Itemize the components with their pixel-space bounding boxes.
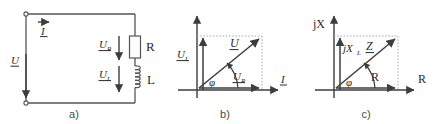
label-jXL-sub: L [356, 49, 361, 57]
label-U-total: U [230, 36, 240, 50]
label-resistor-R: R [146, 39, 155, 54]
label-axis-I: I [280, 73, 286, 85]
terminal-node-bottom [24, 101, 28, 105]
label-jXL: jX [341, 42, 354, 54]
label-axis-R: R [418, 72, 426, 86]
caption-panel-c: c) [361, 108, 370, 120]
vector-total-voltage [199, 39, 259, 88]
terminal-node-top [24, 12, 28, 16]
caption-panel-a: a) [69, 108, 79, 120]
panel-b-phasor: U L U R U φ I b) [177, 16, 288, 120]
label-phi-b: φ [209, 76, 215, 88]
label-current-I: I [40, 25, 46, 37]
label-axis-jX: jX [312, 17, 325, 31]
label-resistor-voltage-sub: R [106, 45, 112, 53]
figure-container: I U U R U L R L a) U L [0, 0, 434, 124]
panel-a-circuit: I U U R U L R L a) [11, 12, 156, 120]
label-inductor-L: L [147, 72, 155, 87]
label-source-voltage-U: U [11, 54, 20, 66]
resistor-symbol [130, 36, 141, 58]
label-UL-sub: L [184, 55, 189, 63]
figure-svg: I U U R U L R L a) U L [0, 0, 434, 124]
label-UR-sub: R [240, 77, 246, 85]
label-phi-c: φ [346, 76, 352, 88]
caption-panel-b: b) [220, 108, 230, 120]
inductor-symbol [135, 66, 140, 92]
panel-c-impedance: jX L R Z φ jX R c) [312, 16, 426, 120]
label-inductor-voltage-sub: L [106, 75, 111, 83]
label-Z: Z [366, 39, 373, 53]
